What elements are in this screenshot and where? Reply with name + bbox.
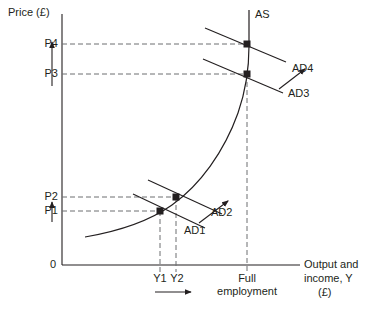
price-tick-p2-label: P2	[20, 190, 58, 203]
as-ad-diagram: Price (£) P4 P3 P2 P1 0 Y1 Y2 Full emplo…	[0, 0, 377, 320]
equilibrium-point-1	[157, 208, 164, 215]
ad3-curve-label: AD3	[288, 87, 309, 100]
ad3-line	[203, 59, 283, 93]
y-axis-label: Price (£)	[8, 6, 50, 19]
ad1-curve-label: AD1	[184, 224, 205, 237]
price-tick-p4-label: P4	[20, 37, 58, 50]
price-tick-p3-label: P3	[20, 67, 58, 80]
x-axis-label-line2: income, Y	[304, 272, 353, 285]
output-tick-full-employment-label-line2: employment	[212, 285, 282, 298]
output-tick-full-employment-label-line1: Full	[212, 272, 282, 285]
price-tick-p1-label: P1	[20, 204, 58, 217]
equilibrium-point-2	[173, 194, 180, 201]
equilibrium-point-3	[244, 71, 251, 78]
equilibrium-point-4	[244, 41, 251, 48]
x-axis-label-line1: Output and	[304, 258, 358, 271]
as-curve-label: AS	[255, 8, 270, 21]
output-tick-y2-label: Y2	[163, 272, 191, 285]
x-axis-label-line3: (£)	[318, 286, 331, 299]
origin-label: 0	[50, 258, 56, 271]
ad2-curve-label: AD2	[211, 206, 232, 219]
ad4-curve-label: AD4	[292, 62, 313, 75]
